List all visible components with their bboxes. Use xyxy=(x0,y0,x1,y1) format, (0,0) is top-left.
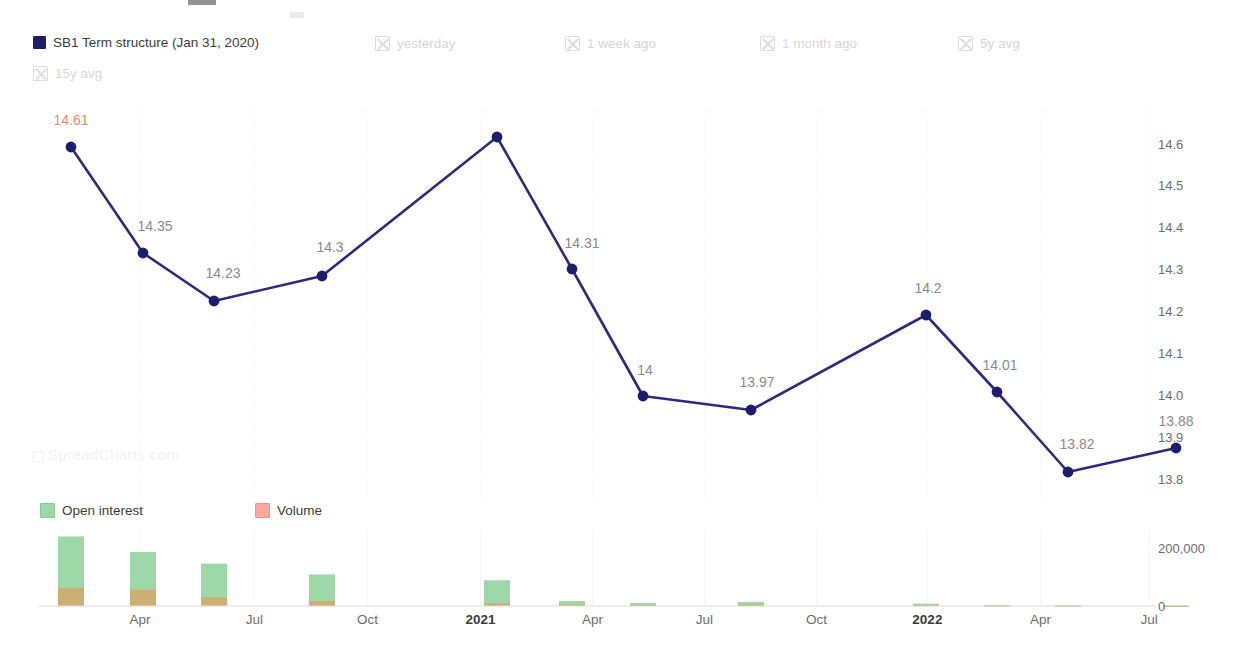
y-axis-tick-label: 13.8 xyxy=(1158,472,1183,487)
legend-item-1-month-ago[interactable]: 1 month ago xyxy=(760,36,857,51)
legend-swatch-icon xyxy=(255,503,270,518)
data-point-marker[interactable] xyxy=(746,405,757,416)
x-axis-tick-label: Apr xyxy=(130,612,151,627)
legend-item-1-week-ago[interactable]: 1 week ago xyxy=(565,36,656,51)
y-axis-tick-label: 14.3 xyxy=(1158,262,1183,277)
bar-legend: Open interestVolume xyxy=(0,503,1253,525)
x-axis-tick-label: Apr xyxy=(582,612,603,627)
x-axis-tick-label: Oct xyxy=(806,612,827,627)
x-axis-tick-label: Jul xyxy=(1141,612,1158,627)
legend-item-15y-avg[interactable]: 15y avg xyxy=(33,66,102,81)
y-axis-tick-label: 14.2 xyxy=(1158,304,1183,319)
x-axis-tick-label: 2022 xyxy=(912,612,942,627)
legend-item-yesterday[interactable]: yesterday xyxy=(375,36,456,51)
legend-label: 5y avg xyxy=(980,37,1020,51)
bar-legend-label: Open interest xyxy=(62,504,143,518)
volume-bar[interactable] xyxy=(309,601,335,606)
legend-label: 15y avg xyxy=(55,67,102,81)
y-axis-tick-label: 14.5 xyxy=(1158,178,1183,193)
x-axis-tick-label: 2021 xyxy=(465,612,495,627)
x-axis: AprJulOct2021AprJulOct2022AprJul xyxy=(38,612,1136,638)
data-point-marker[interactable] xyxy=(638,391,649,402)
series-legend: SB1 Term structure (Jan 31, 2020)yesterd… xyxy=(0,36,1253,102)
line-plot-area xyxy=(38,110,1136,500)
cropped-artifact-top xyxy=(188,0,216,5)
data-point-marker[interactable] xyxy=(567,264,578,275)
open-interest-bar[interactable] xyxy=(484,580,510,606)
legend-swatch-disabled-icon xyxy=(565,36,580,51)
data-point-marker[interactable] xyxy=(1063,467,1074,478)
watermark: SpreadCharts.com xyxy=(33,446,179,463)
y-axis-tick-label: 14.6 xyxy=(1158,136,1183,151)
x-axis-tick-label: Apr xyxy=(1030,612,1051,627)
y-axis-tick-label: 14.1 xyxy=(1158,346,1183,361)
data-point-marker[interactable] xyxy=(209,296,220,307)
legend-swatch-disabled-icon xyxy=(33,66,48,81)
data-point-marker[interactable] xyxy=(66,142,77,153)
legend-swatch-disabled-icon xyxy=(760,36,775,51)
y-axis-tick-label: 14.0 xyxy=(1158,388,1183,403)
legend-swatch-disabled-icon xyxy=(958,36,973,51)
primary-y-axis: 14.614.514.414.314.214.114.013.913.8 xyxy=(1136,110,1253,500)
secondary-y-axis: 200,0000 xyxy=(1136,530,1253,606)
watermark-logo-icon xyxy=(33,451,44,462)
legend-label: 1 month ago xyxy=(782,37,857,51)
volume-bar[interactable] xyxy=(58,588,84,606)
legend-item-5y-avg[interactable]: 5y avg xyxy=(958,36,1020,51)
secondary-y-axis-tick-label: 200,000 xyxy=(1158,540,1205,555)
legend-swatch-disabled-icon xyxy=(375,36,390,51)
data-point-label: 13.88 xyxy=(1158,413,1193,429)
bar-legend-item-volume[interactable]: Volume xyxy=(255,503,322,518)
data-point-marker[interactable] xyxy=(317,271,328,282)
y-axis-tick-label: 13.9 xyxy=(1158,430,1183,445)
line-chart-svg xyxy=(38,110,1136,500)
volume-bar[interactable] xyxy=(130,590,156,606)
legend-swatch-icon xyxy=(33,36,46,49)
bar-legend-item-open-interest[interactable]: Open interest xyxy=(40,503,143,518)
legend-item-sb1-term-structure-jan-31-2020[interactable]: SB1 Term structure (Jan 31, 2020) xyxy=(33,36,259,50)
data-point-marker[interactable] xyxy=(138,248,149,259)
data-point-marker[interactable] xyxy=(492,132,503,143)
cropped-artifact-top-2 xyxy=(290,12,304,18)
legend-label: SB1 Term structure (Jan 31, 2020) xyxy=(53,36,259,50)
bar-legend-label: Volume xyxy=(277,504,322,518)
data-point-marker[interactable] xyxy=(921,310,932,321)
y-axis-tick-label: 14.4 xyxy=(1158,220,1183,235)
series-line-sb1-term-structure xyxy=(71,137,1176,472)
legend-label: 1 week ago xyxy=(587,37,656,51)
x-axis-tick-label: Oct xyxy=(357,612,378,627)
watermark-text: SpreadCharts.com xyxy=(48,446,179,463)
x-axis-tick-label: Jul xyxy=(246,612,263,627)
data-point-marker[interactable] xyxy=(1171,443,1182,454)
volume-oi-plot-area xyxy=(38,530,1136,606)
chart-root: SB1 Term structure (Jan 31, 2020)yesterd… xyxy=(0,0,1253,666)
volume-bar[interactable] xyxy=(201,597,227,606)
data-point-marker[interactable] xyxy=(992,387,1003,398)
x-axis-tick-label: Jul xyxy=(696,612,713,627)
secondary-y-axis-tick-label: 0 xyxy=(1158,599,1165,614)
legend-swatch-icon xyxy=(40,503,55,518)
legend-label: yesterday xyxy=(397,37,456,51)
bar-chart-svg xyxy=(38,530,1136,606)
